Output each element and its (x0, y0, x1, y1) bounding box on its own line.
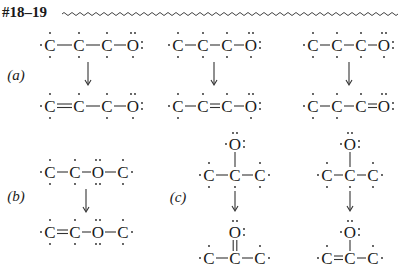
svg-text:C: C (197, 36, 208, 55)
svg-text:C: C (321, 166, 332, 185)
arrow-down-icon (85, 62, 91, 85)
svg-text:C: C (117, 223, 128, 242)
svg-text:C: C (229, 166, 240, 185)
svg-text:C: C (321, 249, 332, 267)
svg-text:O: O (378, 36, 390, 55)
svg-text:C: C (344, 166, 355, 185)
svg-text:C: C (331, 97, 342, 116)
arrow-down-icon (232, 191, 238, 211)
svg-text:C: C (73, 36, 84, 55)
svg-text:C: C (69, 223, 80, 242)
svg-text:C: C (69, 163, 80, 182)
svg-text:O: O (344, 223, 356, 242)
svg-text:C: C (117, 163, 128, 182)
svg-text:C: C (331, 36, 342, 55)
structure-a2-top: C C C O (168, 32, 261, 58)
svg-text:O: O (92, 163, 104, 182)
arrow-down-icon (211, 62, 217, 85)
svg-text:C: C (229, 249, 240, 267)
svg-text:C: C (44, 36, 55, 55)
svg-text:O: O (245, 97, 257, 116)
svg-text:C: C (44, 97, 55, 116)
svg-text:O: O (92, 223, 104, 242)
svg-text:C: C (101, 97, 112, 116)
svg-text:C: C (355, 97, 366, 116)
svg-text:C: C (44, 163, 55, 182)
svg-text:C: C (221, 36, 232, 55)
svg-text:C: C (344, 249, 355, 267)
svg-text:C: C (355, 36, 366, 55)
svg-text:C: C (172, 36, 183, 55)
structure-c1-top: O C C C (199, 132, 270, 188)
label-c: (c) (170, 189, 187, 206)
structure-c1-bottom: O C C C (199, 220, 270, 267)
structure-c2-top: O C C C (317, 132, 383, 188)
svg-text:O: O (229, 135, 241, 154)
label-a: (a) (7, 67, 25, 84)
arrow-down-icon (347, 191, 353, 211)
svg-text:C: C (172, 97, 183, 116)
structure-b-top: C C O C (40, 159, 133, 185)
svg-text:O: O (229, 223, 241, 242)
structure-b-bottom: C C O C (40, 219, 133, 245)
svg-text:C: C (221, 97, 232, 116)
svg-text:C: C (367, 249, 378, 267)
svg-text:O: O (245, 36, 257, 55)
svg-text:C: C (307, 97, 318, 116)
svg-text:O: O (127, 97, 139, 116)
svg-text:O: O (127, 36, 139, 55)
arrow-down-icon (346, 62, 352, 85)
structure-a3-top: C C C O (303, 32, 394, 58)
svg-text:C: C (101, 36, 112, 55)
structure-a3-bottom: C C C O (303, 93, 394, 119)
svg-text:O: O (344, 135, 356, 154)
svg-text:C: C (367, 166, 378, 185)
structure-c2-bottom: O C C C (317, 220, 383, 267)
arrow-down-icon (83, 189, 89, 212)
svg-text:C: C (254, 166, 265, 185)
svg-text:C: C (197, 97, 208, 116)
structure-a1-bottom: C C C O (40, 93, 143, 119)
svg-text:C: C (44, 223, 55, 242)
svg-text:O: O (378, 97, 390, 116)
svg-text:C: C (73, 97, 84, 116)
svg-text:C: C (203, 166, 214, 185)
lewis-structures-diagram: (a) (b) (c) C C C O C C C O (0, 0, 400, 267)
svg-text:C: C (203, 249, 214, 267)
svg-text:C: C (307, 36, 318, 55)
structure-a2-bottom: C C C O (168, 93, 261, 119)
label-b: (b) (7, 188, 25, 205)
wavy-divider (62, 13, 398, 16)
structure-a1-top: C C C O (40, 32, 143, 58)
svg-text:C: C (254, 249, 265, 267)
